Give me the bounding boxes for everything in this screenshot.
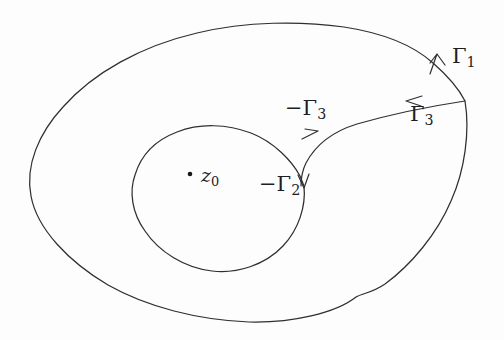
gamma1-direction-arrowhead-icon: [430, 54, 445, 74]
label-neg-gamma3: −Γ3: [285, 98, 326, 121]
label-gamma1: Γ1: [452, 46, 476, 69]
neg-gamma3-direction-arrowhead-icon: [302, 129, 318, 139]
label-z0: z0: [201, 166, 219, 189]
label-gamma3: Γ3: [410, 104, 434, 127]
contour-figure: Γ1 Γ3 −Γ3 −Γ2 z0: [0, 0, 504, 340]
contour-diagram-svg: [0, 0, 504, 340]
inner-contour-gamma2: [132, 126, 304, 272]
label-neg-gamma2: −Γ2: [259, 174, 300, 197]
point-z0-dot: [188, 172, 193, 177]
outer-contour-gamma1: [30, 23, 467, 322]
